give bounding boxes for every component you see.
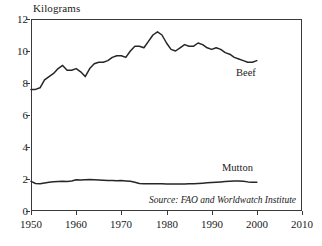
- plot-area: Beef Mutton Source: FAO and Worldwatch I…: [31, 19, 302, 211]
- y-tick-label-2: 2: [2, 174, 28, 185]
- line-series-mutton: [31, 179, 257, 184]
- y-tick-label-0: 0: [2, 206, 28, 217]
- x-tick-mark-2010: [302, 211, 303, 215]
- x-tick-mark-1980: [167, 211, 168, 215]
- x-tick-mark-1990: [212, 211, 213, 215]
- y-tick-label-4: 4: [2, 142, 28, 153]
- chart-lines: [31, 19, 302, 211]
- x-tick-mark-1950: [31, 211, 32, 215]
- y-axis-tick-group: 024681012: [0, 19, 28, 211]
- series-label-mutton: Mutton: [222, 162, 253, 173]
- y-tick-mark-4: [26, 147, 30, 148]
- y-tick-label-8: 8: [2, 78, 28, 89]
- x-tick-label-2000: 2000: [237, 219, 277, 230]
- x-tick-mark-1970: [121, 211, 122, 215]
- x-tick-label-1950: 1950: [11, 219, 51, 230]
- y-tick-mark-6: [26, 115, 30, 116]
- y-tick-label-12: 12: [2, 14, 28, 25]
- x-tick-mark-2000: [257, 211, 258, 215]
- x-tick-mark-1960: [76, 211, 77, 215]
- y-tick-label-10: 10: [2, 46, 28, 57]
- y-tick-mark-8: [26, 83, 30, 84]
- x-tick-label-2010: 2010: [282, 219, 322, 230]
- x-tick-label-1960: 1960: [56, 219, 96, 230]
- y-tick-mark-2: [26, 179, 30, 180]
- x-tick-label-1980: 1980: [147, 219, 187, 230]
- line-series-beef: [31, 32, 257, 90]
- y-tick-label-6: 6: [2, 110, 28, 121]
- y-tick-mark-0: [26, 211, 30, 212]
- x-axis-tick-group: 1950196019701980199020002010: [31, 211, 302, 237]
- source-note: Source: FAO and Worldwatch Institute: [149, 195, 296, 206]
- chart-figure: Kilograms 024681012 Beef Mutton Source: …: [0, 0, 322, 246]
- x-tick-label-1990: 1990: [192, 219, 232, 230]
- y-axis-title: Kilograms: [33, 2, 80, 14]
- y-tick-mark-10: [26, 51, 30, 52]
- series-label-beef: Beef: [236, 67, 256, 78]
- y-tick-mark-12: [26, 19, 30, 20]
- x-tick-label-1970: 1970: [101, 219, 141, 230]
